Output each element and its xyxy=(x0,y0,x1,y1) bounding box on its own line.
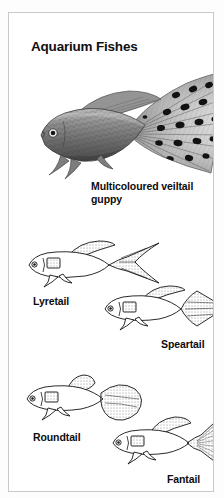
roundtail-label: Roundtail xyxy=(33,431,81,443)
fantail-guppy-diagram xyxy=(109,409,214,475)
guppy-caption-line-1: Multicoloured veiltail xyxy=(91,180,193,192)
page-title: Aquarium Fishes xyxy=(31,39,138,54)
figure-page: Aquarium Fishes xyxy=(0,0,224,498)
speartail-guppy-diagram xyxy=(101,281,214,335)
fantail-label: Fantail xyxy=(167,473,200,485)
lyretail-label: Lyretail xyxy=(33,295,69,307)
guppy-caption-line-2: guppy xyxy=(91,193,122,205)
guppy-photo-caption: Multicoloured veiltail guppy xyxy=(91,180,214,205)
speartail-label: Speartail xyxy=(161,338,204,350)
guppy-eye xyxy=(49,129,57,137)
multicoloured-veiltail-guppy-photograph xyxy=(37,69,214,181)
figure-border-box: Aquarium Fishes xyxy=(8,12,214,492)
guppy-body xyxy=(37,99,157,169)
